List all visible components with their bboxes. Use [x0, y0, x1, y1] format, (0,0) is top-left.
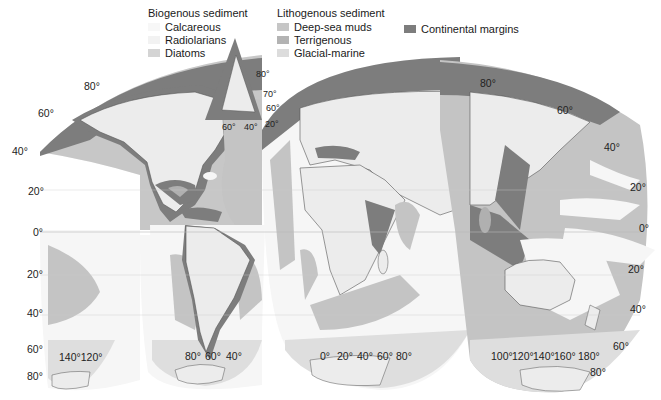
swatch-terrigenous: [277, 36, 289, 44]
legend-item-deep-sea-muds: Deep-sea muds: [277, 21, 372, 33]
lat-label-left-40n: 40°: [12, 145, 28, 157]
inset-lat-60: 60°: [266, 103, 280, 113]
inset-lon-20: 20°: [265, 119, 279, 129]
lat-label-left-60s: 60°: [27, 343, 43, 355]
lat-label-right-40n: 40°: [604, 141, 620, 153]
legend-lithogenous-title: Lithogenous sediment: [277, 7, 385, 19]
swatch-radiolarians: [148, 36, 160, 44]
lobe-south-america: [150, 225, 265, 388]
inset-lat-70: 70°: [263, 89, 277, 99]
lon-label-100e: 100°: [491, 350, 513, 362]
swatch-continental-margins: [404, 25, 416, 33]
lobe-europe-africa: [262, 57, 470, 390]
lon-label-60w: 60°: [205, 350, 221, 362]
lat-label-right-40s: 40°: [630, 303, 646, 315]
lon-label-0: 0°: [320, 350, 330, 362]
lat-label-right-80n: 80°: [480, 77, 496, 89]
legend-label: Deep-sea muds: [294, 21, 372, 33]
legend-label: Terrigenous: [294, 34, 351, 46]
antarctica-west: [52, 371, 90, 389]
sediment-world-map: [0, 0, 661, 400]
lon-label-60e: 60°: [377, 350, 393, 362]
swatch-deep-sea-muds: [277, 23, 289, 31]
legend-biogenous-title: Biogenous sediment: [148, 7, 248, 19]
swatch-glacial-marine: [277, 49, 289, 57]
lat-label-right-80s: 80°: [590, 366, 606, 378]
legend-label: Radiolarians: [165, 34, 226, 46]
lon-label-180: 180°: [578, 350, 600, 362]
lat-label-right-60n: 60°: [557, 104, 573, 116]
legend-label: Calcareous: [165, 21, 221, 33]
lon-label-80w: 80°: [185, 350, 201, 362]
lat-label-right-20s: 20°: [628, 263, 644, 275]
legend-item-continental-margins: Continental margins: [404, 23, 519, 35]
lon-label-40e: 40°: [357, 350, 373, 362]
legend-item-calcareous: Calcareous: [148, 21, 221, 33]
swatch-calcareous: [148, 23, 160, 31]
swatch-diatoms: [148, 49, 160, 57]
legend-item-terrigenous: Terrigenous: [277, 34, 351, 46]
inset-lat-80: 80°: [256, 69, 270, 79]
legend-label: Glacial-marine: [294, 47, 365, 59]
lon-label-20e: 20°: [337, 350, 353, 362]
lon-label-pacific-west: 140°120°: [59, 351, 102, 363]
lat-label-right-20n: 20°: [630, 181, 646, 193]
lat-label-left-0: 0°: [33, 226, 43, 238]
lon-label-120e: 120°: [512, 350, 534, 362]
lat-label-left-20s: 20°: [27, 268, 43, 280]
lat-label-left-80s: 80°: [27, 370, 43, 382]
lat-label-left-20n: 20°: [28, 185, 44, 197]
legend-label: Continental margins: [421, 23, 519, 35]
legend-label: Diatoms: [165, 47, 205, 59]
lat-label-left-60n: 60°: [38, 107, 54, 119]
legend-item-diatoms: Diatoms: [148, 47, 205, 59]
lat-label-left-80n: 80°: [84, 80, 100, 92]
lon-label-160e: 160°: [554, 350, 576, 362]
inset-lon-40: 40°: [244, 122, 258, 132]
lon-label-140e: 140°: [533, 350, 555, 362]
lat-label-left-40s: 40°: [27, 307, 43, 319]
lat-label-right-60s: 60°: [613, 340, 629, 352]
legend-item-radiolarians: Radiolarians: [148, 34, 226, 46]
inset-lon-60: 60°: [222, 122, 236, 132]
lon-label-40w: 40°: [226, 350, 242, 362]
lat-label-right-0: 0°: [639, 222, 649, 234]
lon-label-80e: 80°: [396, 350, 412, 362]
legend-item-glacial-marine: Glacial-marine: [277, 47, 365, 59]
